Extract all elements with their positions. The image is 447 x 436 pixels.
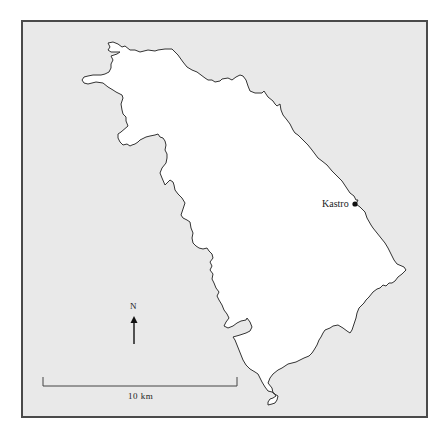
scale-bar-icon bbox=[43, 377, 237, 386]
landmass-outline bbox=[82, 42, 406, 405]
north-arrow-label: N bbox=[130, 301, 137, 311]
map-canvas bbox=[0, 0, 447, 436]
kastro-marker-icon bbox=[352, 201, 357, 206]
north-arrow-head-icon bbox=[131, 316, 138, 323]
place-label-kastro: Kastro bbox=[322, 198, 349, 209]
scale-bar-label: 10 km bbox=[128, 391, 153, 401]
